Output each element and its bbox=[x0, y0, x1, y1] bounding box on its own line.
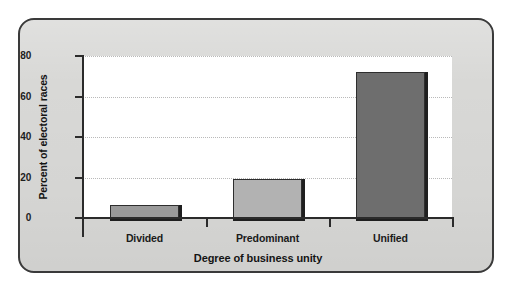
y-axis-tick-mark bbox=[75, 96, 83, 98]
gridline bbox=[83, 56, 452, 57]
x-axis-category-label: Unified bbox=[329, 232, 452, 244]
y-axis-tick-label: 60 bbox=[18, 92, 31, 102]
figure-frame: 020406080 DividedPredominantUnified Perc… bbox=[18, 18, 494, 273]
x-axis-tick-mark bbox=[329, 218, 331, 227]
x-axis-title: Degree of business unity bbox=[20, 252, 494, 264]
y-axis-tick-label: 0 bbox=[18, 213, 31, 223]
y-axis-tick-mark bbox=[75, 136, 83, 138]
y-axis-line bbox=[82, 55, 84, 237]
y-axis-tick-mark bbox=[75, 177, 83, 179]
y-axis-title-text: Percent of electoral races bbox=[37, 74, 49, 199]
x-axis-category-label: Predominant bbox=[206, 232, 329, 244]
plot-area bbox=[83, 56, 452, 218]
y-axis-tick-label: 20 bbox=[18, 173, 31, 183]
x-axis-tick-mark bbox=[452, 218, 454, 227]
y-axis-tick-label: 80 bbox=[18, 51, 31, 61]
x-axis-line bbox=[82, 217, 454, 219]
y-axis-tick-mark bbox=[75, 217, 83, 219]
bar bbox=[233, 179, 302, 218]
y-axis-title: Percent of electoral races bbox=[36, 56, 50, 218]
x-axis-tick-mark bbox=[206, 218, 208, 227]
y-axis-tick-label: 40 bbox=[18, 132, 31, 142]
bar bbox=[356, 72, 425, 218]
x-axis-category-label: Divided bbox=[83, 232, 206, 244]
bar bbox=[110, 205, 179, 218]
y-axis-tick-mark bbox=[75, 55, 83, 57]
